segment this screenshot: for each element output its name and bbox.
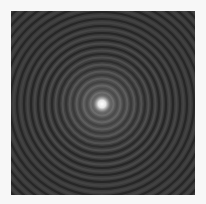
ring-pattern — [11, 11, 195, 195]
diffraction-image — [11, 11, 195, 195]
